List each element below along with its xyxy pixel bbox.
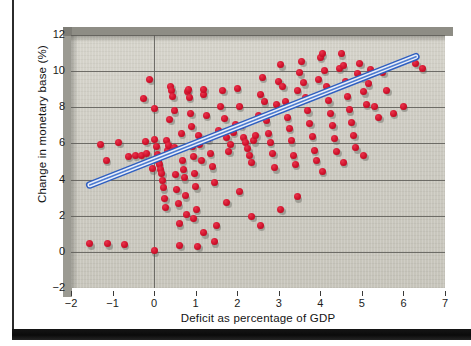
x-tick-mark bbox=[362, 291, 363, 296]
x-tick-mark bbox=[71, 291, 72, 296]
scatter-chart: −2024681012 −2−101234567 Change in monet… bbox=[0, 0, 471, 346]
x-tick-mark bbox=[196, 291, 197, 296]
scanned-page: −2024681012 −2−101234567 Change in monet… bbox=[0, 0, 471, 346]
x-tick-mark bbox=[445, 291, 446, 296]
page-bottom-edge bbox=[12, 329, 471, 340]
x-tick-label: 7 bbox=[430, 297, 460, 309]
trendline bbox=[71, 35, 445, 288]
x-axis-label: Deficit as percentage of GDP bbox=[71, 312, 445, 324]
x-tick-mark bbox=[154, 291, 155, 296]
x-tick-mark bbox=[279, 291, 280, 296]
y-axis-label: Change in monetary base (%) bbox=[36, 24, 48, 224]
page-bottom-margin bbox=[12, 340, 471, 346]
x-tick-label: 0 bbox=[139, 297, 169, 309]
x-tick-label: 2 bbox=[222, 297, 252, 309]
page-left-edge bbox=[12, 0, 14, 330]
trendline-stroke bbox=[90, 57, 416, 185]
y-tick-label: 0 bbox=[39, 245, 65, 257]
x-tick-label: 3 bbox=[264, 297, 294, 309]
x-tick-label: 5 bbox=[347, 297, 377, 309]
x-tick-mark bbox=[113, 291, 114, 296]
x-tick-mark bbox=[403, 291, 404, 296]
x-tick-label: 4 bbox=[305, 297, 335, 309]
x-tick-mark bbox=[320, 291, 321, 296]
x-tick-label: −2 bbox=[56, 297, 86, 309]
x-tick-label: 6 bbox=[388, 297, 418, 309]
plot-area bbox=[71, 35, 445, 288]
y-tick-label: −2 bbox=[39, 281, 65, 293]
x-tick-label: −1 bbox=[98, 297, 128, 309]
x-tick-mark bbox=[237, 291, 238, 296]
x-tick-label: 1 bbox=[181, 297, 211, 309]
